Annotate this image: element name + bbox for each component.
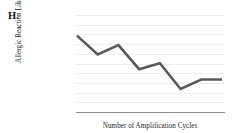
y-axis-title: Allergic Reaction Likelihood — [13, 0, 25, 70]
x-axis-title: Number of Amplification Cycles — [76, 121, 224, 131]
series-polyline — [77, 36, 222, 89]
x-axis-line — [76, 112, 225, 113]
line-series — [76, 15, 224, 113]
figure-panel: H. Allergic Reaction Likelihood Number o… — [0, 0, 233, 133]
plot-area — [76, 15, 224, 113]
